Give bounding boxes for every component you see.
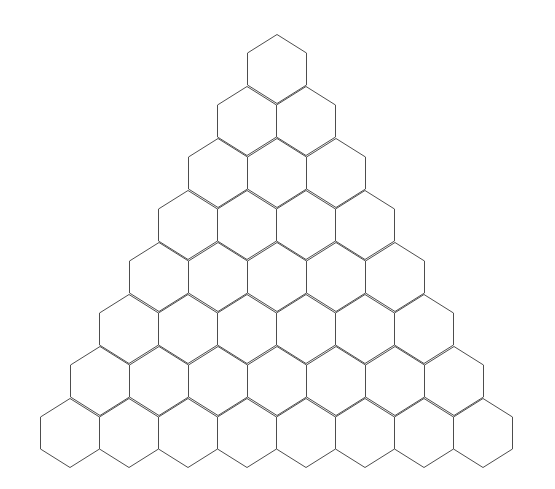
hexagon-layer — [41, 35, 513, 468]
figure-canvas — [0, 0, 555, 489]
hexagon-triangle-grid — [0, 0, 555, 489]
